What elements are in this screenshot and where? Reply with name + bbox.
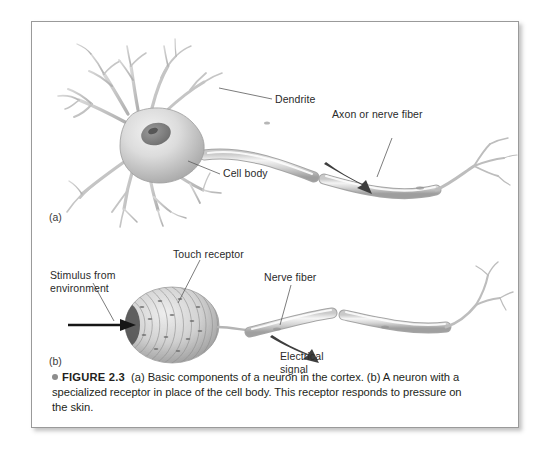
figure-page: Dendrite Cell body Axon or nerve fiber (… xyxy=(31,21,519,428)
panel-letter-a: (a) xyxy=(49,211,62,223)
label-nerve-fiber: Nerve fiber xyxy=(264,271,316,284)
label-cell-body: Cell body xyxy=(223,167,268,180)
axon-terminals xyxy=(436,138,517,190)
round-bullet-icon xyxy=(52,374,58,380)
label-axon: Axon or nerve fiber xyxy=(332,108,423,121)
axon xyxy=(204,121,436,193)
label-stimulus: Stimulus from environment xyxy=(50,269,115,294)
nerve-fiber xyxy=(218,310,446,332)
cell-body xyxy=(120,108,204,183)
panel-letter-b: (b) xyxy=(49,355,62,367)
panel-b-artwork xyxy=(32,237,519,387)
label-touch-receptor: Touch receptor xyxy=(173,248,244,261)
figure-caption: FIGURE 2.3 (a) Basic components of a neu… xyxy=(52,370,472,416)
panel-a-artwork xyxy=(32,22,519,252)
nerve-endings xyxy=(446,262,513,327)
figure-number: FIGURE 2.3 xyxy=(62,371,125,383)
label-dendrite: Dendrite xyxy=(275,93,316,106)
